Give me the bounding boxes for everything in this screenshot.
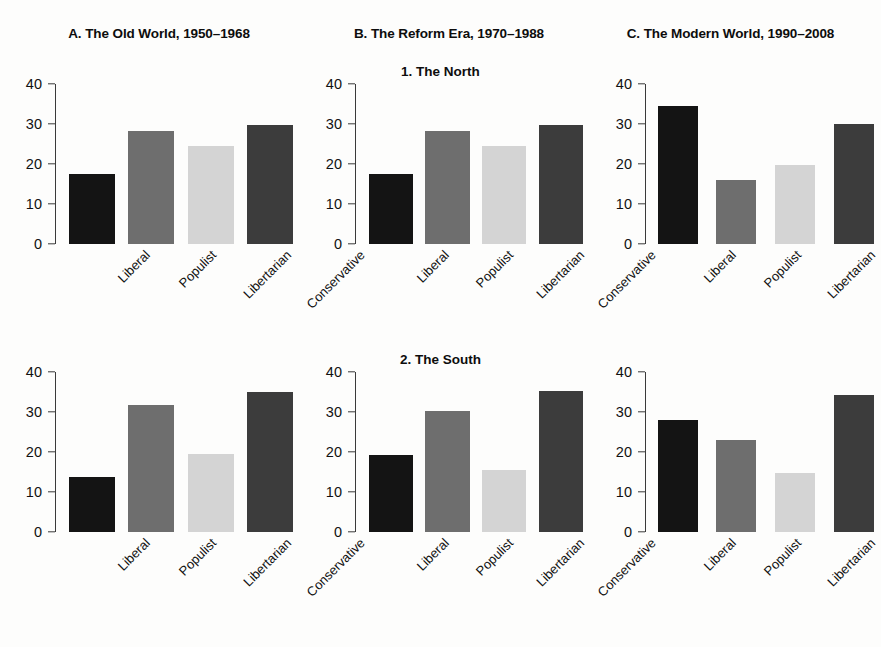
bar-populist bbox=[128, 131, 174, 244]
y-tick-label: 30 bbox=[326, 405, 342, 420]
bar-group bbox=[366, 84, 582, 244]
y-tick-mark bbox=[638, 203, 645, 204]
y-tick-mark bbox=[48, 451, 55, 452]
plot-area: 010203040 bbox=[590, 84, 881, 244]
y-tick-mark bbox=[48, 203, 55, 204]
bar-libertarian bbox=[775, 165, 815, 244]
plot-area: 010203040 bbox=[0, 372, 300, 532]
y-axis: 010203040 bbox=[590, 84, 654, 244]
column-title-a: A. The Old World, 1950–1968 bbox=[0, 26, 318, 46]
bar-populist bbox=[425, 411, 469, 532]
x-tick-label-libertarian: Libertarian bbox=[825, 248, 878, 301]
bar-group bbox=[656, 84, 873, 244]
chart-panel-a2: 010203040LiberalPopulistLibertarianConse… bbox=[0, 372, 300, 602]
y-tick-label: 0 bbox=[334, 525, 342, 540]
bar-conservative bbox=[247, 392, 293, 532]
y-tick-label: 40 bbox=[26, 77, 42, 92]
y-tick-label: 20 bbox=[616, 157, 632, 172]
bar-liberal bbox=[369, 455, 413, 532]
y-tick-mark bbox=[638, 371, 645, 372]
bar-liberal bbox=[69, 477, 115, 532]
x-tick-label-libertarian: Libertarian bbox=[241, 248, 294, 301]
y-tick-mark bbox=[638, 83, 645, 84]
y-tick-label: 10 bbox=[26, 485, 42, 500]
y-tick-label: 0 bbox=[624, 525, 632, 540]
y-tick-label: 10 bbox=[616, 485, 632, 500]
x-tick-label-libertarian: Libertarian bbox=[534, 536, 587, 589]
y-tick-mark bbox=[348, 203, 355, 204]
x-axis-labels: LiberalPopulistLibertarianConservative bbox=[366, 532, 582, 602]
y-tick-mark bbox=[48, 371, 55, 372]
y-tick-label: 30 bbox=[326, 117, 342, 132]
row-title-south: 2. The South bbox=[0, 352, 881, 367]
y-tick-label: 10 bbox=[326, 485, 342, 500]
bar-conservative bbox=[247, 125, 293, 244]
row-title-north: 1. The North bbox=[0, 64, 881, 79]
y-tick-label: 20 bbox=[26, 445, 42, 460]
x-tick-label-liberal: Liberal bbox=[701, 248, 738, 285]
bar-libertarian bbox=[188, 454, 234, 532]
y-tick-label: 40 bbox=[26, 365, 42, 380]
y-tick-label: 0 bbox=[34, 237, 42, 252]
y-tick-mark bbox=[638, 451, 645, 452]
y-tick-label: 30 bbox=[616, 117, 632, 132]
y-tick-label: 0 bbox=[334, 237, 342, 252]
chart-panel-c1: 010203040LiberalPopulistLibertarianConse… bbox=[590, 84, 881, 314]
bar-liberal bbox=[369, 174, 413, 244]
bar-libertarian bbox=[482, 470, 526, 532]
y-tick-mark bbox=[48, 243, 55, 244]
bar-conservative bbox=[834, 395, 874, 532]
y-tick-mark bbox=[638, 531, 645, 532]
y-tick-label: 40 bbox=[616, 77, 632, 92]
y-tick-label: 20 bbox=[26, 157, 42, 172]
y-tick-mark bbox=[48, 123, 55, 124]
y-tick-mark bbox=[348, 123, 355, 124]
y-tick-label: 10 bbox=[616, 197, 632, 212]
y-tick-mark bbox=[48, 531, 55, 532]
bar-libertarian bbox=[482, 146, 526, 244]
y-tick-mark bbox=[348, 531, 355, 532]
y-tick-label: 40 bbox=[326, 77, 342, 92]
y-tick-label: 40 bbox=[616, 365, 632, 380]
y-tick-mark bbox=[638, 123, 645, 124]
y-tick-label: 10 bbox=[326, 197, 342, 212]
bar-group bbox=[656, 372, 873, 532]
y-tick-mark bbox=[638, 243, 645, 244]
y-tick-mark bbox=[638, 491, 645, 492]
bar-conservative bbox=[539, 391, 583, 532]
y-tick-label: 20 bbox=[616, 445, 632, 460]
y-axis: 010203040 bbox=[0, 372, 64, 532]
column-title-row: A. The Old World, 1950–1968 B. The Refor… bbox=[0, 26, 881, 46]
x-tick-label-libertarian: Libertarian bbox=[825, 536, 878, 589]
y-tick-label: 0 bbox=[624, 237, 632, 252]
y-tick-label: 40 bbox=[326, 365, 342, 380]
x-axis-labels: LiberalPopulistLibertarianConservative bbox=[656, 244, 873, 314]
bar-libertarian bbox=[188, 146, 234, 244]
chart-panel-b2: 010203040LiberalPopulistLibertarianConse… bbox=[300, 372, 590, 602]
bar-group bbox=[66, 84, 292, 244]
y-tick-mark bbox=[638, 163, 645, 164]
column-title-c: C. The Modern World, 1990–2008 bbox=[580, 26, 881, 46]
bar-liberal bbox=[658, 106, 698, 244]
bar-populist bbox=[716, 440, 756, 532]
y-tick-mark bbox=[48, 411, 55, 412]
bar-liberal bbox=[658, 420, 698, 532]
bar-group bbox=[66, 372, 292, 532]
y-tick-label: 0 bbox=[34, 525, 42, 540]
y-axis: 010203040 bbox=[300, 372, 364, 532]
y-tick-label: 20 bbox=[326, 445, 342, 460]
plot-area: 010203040 bbox=[590, 372, 881, 532]
bar-liberal bbox=[69, 174, 115, 244]
y-tick-label: 30 bbox=[616, 405, 632, 420]
column-title-b: B. The Reform Era, 1970–1988 bbox=[318, 26, 580, 46]
x-axis-labels: LiberalPopulistLibertarianConservative bbox=[656, 532, 873, 602]
y-tick-mark bbox=[348, 411, 355, 412]
figure-canvas: A. The Old World, 1950–1968 B. The Refor… bbox=[0, 0, 881, 647]
bar-populist bbox=[716, 180, 756, 244]
x-axis-labels: LiberalPopulistLibertarianConservative bbox=[66, 244, 292, 314]
x-tick-label-libertarian: Libertarian bbox=[534, 248, 587, 301]
x-tick-label-liberal: Liberal bbox=[414, 248, 451, 285]
y-axis: 010203040 bbox=[300, 84, 364, 244]
x-tick-label-liberal: Liberal bbox=[701, 536, 738, 573]
x-tick-label-populist: Populist bbox=[473, 536, 515, 578]
